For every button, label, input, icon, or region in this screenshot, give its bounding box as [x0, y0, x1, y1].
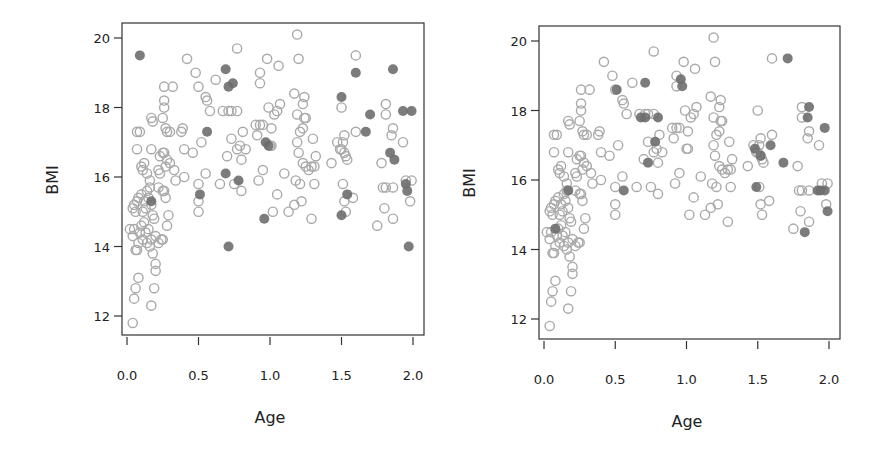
data-point-open	[338, 179, 347, 188]
points-open	[125, 30, 416, 328]
plot-frame	[539, 26, 840, 339]
data-point-open	[547, 297, 556, 306]
chart-left: 1214161820 0.00.51.01.52.0 BMI Age	[0, 0, 440, 455]
data-point-filled	[550, 224, 560, 234]
data-point-open	[194, 82, 203, 91]
data-point-open	[131, 284, 140, 293]
x-tick-label: 1.5	[747, 372, 768, 387]
data-point-open	[293, 138, 302, 147]
data-point-open	[551, 276, 560, 285]
data-point-filled	[402, 186, 412, 196]
data-point-filled	[804, 102, 814, 112]
data-point-open	[743, 162, 752, 171]
data-point-open	[205, 106, 214, 115]
data-point-open	[237, 155, 246, 164]
data-point-open	[380, 204, 389, 213]
x-tick-label: 1.5	[331, 368, 352, 383]
data-point-open	[280, 169, 289, 178]
data-point-open	[611, 210, 620, 219]
data-point-open	[767, 130, 776, 139]
data-point-open	[233, 106, 242, 115]
data-point-filled	[389, 155, 399, 165]
data-point-open	[254, 176, 263, 185]
data-point-open	[201, 169, 210, 178]
x-tick-label: 1.0	[676, 372, 697, 387]
data-point-open	[132, 145, 141, 154]
data-point-open	[579, 224, 588, 233]
data-point-filled	[351, 68, 361, 78]
data-point-open	[596, 148, 605, 157]
data-point-open	[576, 85, 585, 94]
data-point-open	[194, 207, 203, 216]
data-point-filled	[751, 182, 761, 192]
data-point-filled	[650, 137, 660, 147]
data-point-filled	[823, 206, 833, 216]
data-point-open	[804, 217, 813, 226]
data-point-open	[632, 182, 641, 191]
data-point-open	[599, 57, 608, 66]
data-point-open	[614, 141, 623, 150]
data-point-open	[706, 92, 715, 101]
data-point-open	[373, 221, 382, 230]
data-point-open	[611, 200, 620, 209]
scatter-panel-right: 1214161820 0.00.51.01.52.0 BMI Age	[440, 0, 879, 455]
data-point-open	[611, 182, 620, 191]
data-point-filled	[195, 189, 205, 199]
data-point-open	[160, 82, 169, 91]
data-point-open	[605, 151, 614, 160]
data-point-filled	[778, 158, 788, 168]
data-point-open	[377, 159, 386, 168]
data-point-open	[223, 152, 232, 161]
data-point-open	[709, 33, 718, 42]
data-point-open	[307, 214, 316, 223]
data-point-filled	[677, 81, 687, 91]
data-point-open	[690, 64, 699, 73]
data-point-open	[273, 190, 282, 199]
x-axis: 0.00.51.01.52.0	[534, 341, 840, 387]
data-point-filled	[820, 123, 830, 133]
data-point-open	[628, 78, 637, 87]
data-point-open	[290, 89, 299, 98]
data-point-open	[180, 145, 189, 154]
y-tick-label: 14	[510, 243, 527, 258]
data-point-open	[128, 318, 137, 327]
data-point-open	[581, 214, 590, 223]
data-point-filled	[653, 112, 663, 122]
data-point-filled	[398, 106, 408, 116]
plot-frame	[122, 23, 424, 335]
data-point-filled	[619, 185, 629, 195]
data-point-open	[180, 172, 189, 181]
data-point-open	[683, 127, 692, 136]
data-point-open	[767, 54, 776, 63]
data-point-open	[151, 266, 160, 275]
data-point-open	[814, 141, 823, 150]
x-tick-label: 0.0	[534, 372, 555, 387]
data-point-open	[255, 68, 264, 77]
data-point-filled	[146, 196, 156, 206]
x-axis: 0.00.51.01.52.0	[117, 337, 424, 383]
data-point-filled	[228, 78, 238, 88]
data-point-open	[709, 141, 718, 150]
data-point-open	[596, 175, 605, 184]
data-point-open	[564, 304, 573, 313]
data-point-open	[671, 179, 680, 188]
x-tick-label: 0.0	[117, 368, 138, 383]
data-point-open	[337, 103, 346, 112]
data-point-filled	[407, 106, 417, 116]
data-point-filled	[264, 141, 274, 151]
data-point-open	[238, 127, 247, 136]
data-point-filled	[640, 78, 650, 88]
data-point-open	[653, 189, 662, 198]
scatter-panel-left: 1214161820 0.00.51.01.52.0 BMI Age	[0, 0, 440, 455]
data-point-open	[351, 51, 360, 60]
data-point-filled	[643, 158, 653, 168]
data-point-open	[134, 273, 143, 282]
data-point-filled	[756, 151, 766, 161]
data-point-open	[227, 134, 236, 143]
data-point-open	[618, 172, 627, 181]
data-point-open	[237, 186, 246, 195]
data-point-open	[585, 85, 594, 94]
data-point-open	[753, 106, 762, 115]
x-tick-label: 1.0	[260, 368, 281, 383]
data-point-open	[685, 210, 694, 219]
